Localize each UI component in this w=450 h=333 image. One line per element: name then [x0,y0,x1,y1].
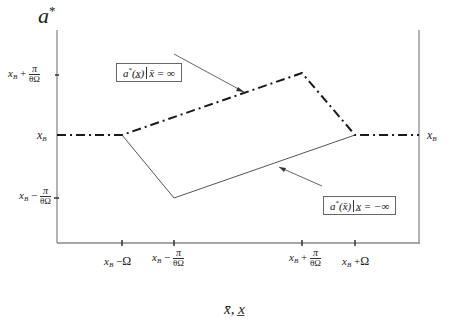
legend-arg: (x̄) [339,200,351,212]
tick-op: + [301,251,307,263]
tick-tail: Ω [360,254,369,268]
legend-lower-box: a*(x̄)x̲ = −∞ [323,196,396,215]
tick-sub: B [42,135,46,143]
x-tick-label-xb-plus-omega: xB +Ω [342,255,369,269]
arrowhead-lower-icon [279,167,286,172]
tick-sub: B [24,195,28,203]
legend-upper-box: a*(x̲)x̄ = ∞ [116,63,182,82]
pointer-upper [174,54,244,92]
y-axis-label-sup: * [49,3,56,18]
tick-sub: B [13,73,17,81]
y-axis-label: a* [38,4,56,27]
diagram-canvas [0,0,450,333]
legend-cond: x̄ = ∞ [149,67,175,79]
pointer-lower [279,167,322,186]
x-tick-label-xb-minus-omega: xB −Ω [104,255,131,269]
x-axis-label-text: x̄, x̲ [224,301,245,317]
legend-arg: (x̲) [132,67,144,79]
tick-op: − [164,251,170,263]
tick-sub: B [109,261,113,269]
tick-sub: B [157,257,161,265]
frac-den: θΩ [29,75,40,84]
right-label-sub: B [432,135,436,143]
tick-fraction: πθΩ [29,64,40,84]
frac-den: θΩ [173,259,184,268]
y-tick-label-upper: xB + πθΩ [8,64,40,84]
tick-op: − [31,189,37,201]
arrowhead-upper-icon [236,87,244,92]
tick-fraction: πθΩ [40,186,51,206]
frac-den: θΩ [310,259,321,268]
curve-lower-solid [122,135,355,198]
tick-fraction: πθΩ [173,248,184,268]
y-tick-label-lower: xB − πθΩ [19,186,51,206]
legend-cond: x̲ = −∞ [356,200,389,212]
y-tick-label-mid: xB [37,129,47,143]
curve-upper-dashdot [57,73,419,135]
x-tick-label-xb-plus-pi: xB + πθΩ [289,248,321,268]
tick-sub: B [294,257,298,265]
right-label-xb: xB [427,129,437,143]
x-axis-label: x̄, x̲ [224,302,245,317]
tick-sub: B [347,261,351,269]
frac-den: θΩ [40,197,51,206]
tick-tail: Ω [122,254,131,268]
x-tick-label-xb-minus-pi: xB − πθΩ [152,248,184,268]
tick-fraction: πθΩ [310,248,321,268]
y-axis-label-text: a [38,3,49,28]
tick-op: + [20,67,26,79]
